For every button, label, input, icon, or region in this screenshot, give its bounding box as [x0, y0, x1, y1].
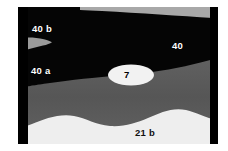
label-unit-40: 40 — [172, 41, 183, 51]
unit-7-lens — [108, 65, 154, 86]
left-boundary-bar — [18, 7, 28, 144]
label-unit-7: 7 — [124, 70, 130, 80]
cross-section-figure: 40 b 40 a 40 7 21 b — [0, 0, 228, 151]
label-unit-40a: 40 a — [31, 66, 51, 76]
label-unit-40b: 40 b — [32, 24, 52, 34]
label-unit-21b: 21 b — [135, 128, 155, 138]
right-boundary-bar — [210, 7, 218, 144]
